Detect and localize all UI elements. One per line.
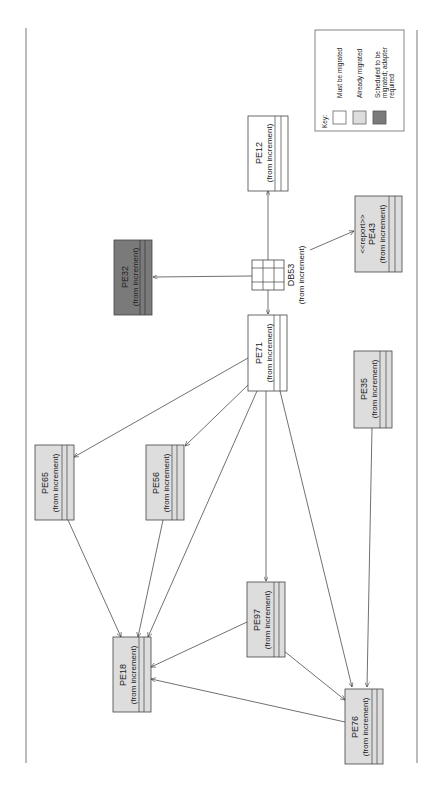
edge-pe97-pe76 bbox=[284, 651, 345, 700]
node-pe56-sub: (from increment) bbox=[162, 453, 171, 512]
node-pe35-name: PE35 bbox=[359, 378, 369, 400]
node-pe65-sub: (from increment) bbox=[51, 453, 60, 512]
node-pe76[interactable]: PE76 (from increment) bbox=[345, 689, 383, 764]
node-pe71[interactable]: PE71 (from increment) bbox=[248, 315, 287, 391]
node-pe18-name: PE18 bbox=[118, 664, 128, 686]
edge-pe76-pe18 bbox=[151, 679, 345, 722]
node-pe65[interactable]: PE65 (from increment) bbox=[35, 445, 74, 520]
node-pe18-sub: (from increment) bbox=[129, 645, 138, 704]
node-pe97-sub: (from increment) bbox=[263, 590, 272, 649]
node-pe43[interactable]: <<report>> PE43 (from increment) bbox=[355, 196, 402, 272]
node-pe35[interactable]: PE35 (from increment) bbox=[354, 351, 392, 428]
edge-pe56-pe18 bbox=[138, 520, 163, 637]
edge-db53-pe32 bbox=[153, 276, 252, 277]
node-pe43-sub: (from increment) bbox=[378, 204, 387, 263]
node-db53[interactable]: DB53 (from increment) bbox=[252, 245, 306, 304]
legend-title: Key: bbox=[321, 115, 329, 128]
node-pe65-name: PE65 bbox=[40, 472, 50, 494]
node-pe43-stereotype: <<report>> bbox=[358, 214, 367, 254]
node-pe97-name: PE97 bbox=[252, 609, 262, 631]
edge-pe65-pe18 bbox=[68, 520, 121, 637]
node-pe35-sub: (from increment) bbox=[370, 359, 379, 418]
edge-pe97-pe18 bbox=[151, 622, 247, 667]
node-pe76-sub: (from increment) bbox=[361, 697, 370, 756]
node-db53-sub: (from increment) bbox=[297, 245, 306, 304]
legend-swatch-must-migrate bbox=[333, 111, 346, 124]
legend-swatch-already-migrated bbox=[353, 111, 366, 124]
legend-label-scheduled-line1: Scheduled to be bbox=[374, 51, 381, 98]
node-pe32-sub: (from increment) bbox=[131, 247, 140, 306]
node-pe71-sub: (from increment) bbox=[265, 323, 274, 382]
node-pe97[interactable]: PE97 (from increment) bbox=[247, 582, 285, 657]
edge-pe35-pe76 bbox=[367, 428, 372, 687]
node-pe32-name: PE32 bbox=[120, 266, 130, 288]
edge-pe71-pe56 bbox=[185, 385, 248, 446]
dependency-diagram: PE12 (from increment) DB53 (from increme… bbox=[0, 0, 425, 788]
node-db53-name: DB53 bbox=[286, 264, 296, 287]
node-pe71-name: PE71 bbox=[254, 342, 264, 364]
legend-swatch-scheduled bbox=[373, 111, 386, 124]
edge-db53-pe43 bbox=[310, 231, 354, 250]
legend: Key: Must be migrated Already migrated S… bbox=[315, 30, 404, 131]
node-pe12-name: PE12 bbox=[254, 142, 264, 164]
legend-label-must-migrate: Must be migrated bbox=[336, 47, 344, 98]
node-pe18[interactable]: PE18 (from increment) bbox=[113, 637, 151, 712]
legend-label-scheduled-line3: required bbox=[388, 74, 396, 98]
node-pe56[interactable]: PE56 (from increment) bbox=[146, 445, 184, 520]
edge-pe71-pe76 bbox=[280, 391, 352, 687]
legend-label-already-migrated: Already migrated bbox=[356, 48, 364, 98]
node-pe76-name: PE76 bbox=[350, 716, 360, 738]
node-pe56-name: PE56 bbox=[151, 472, 161, 494]
node-pe43-name: PE43 bbox=[367, 223, 377, 245]
edge-pe71-pe65 bbox=[74, 358, 248, 457]
node-pe12-sub: (from increment) bbox=[265, 123, 274, 182]
node-pe12[interactable]: PE12 (from increment) bbox=[248, 116, 288, 191]
node-pe32[interactable]: PE32 (from increment) bbox=[114, 240, 152, 315]
